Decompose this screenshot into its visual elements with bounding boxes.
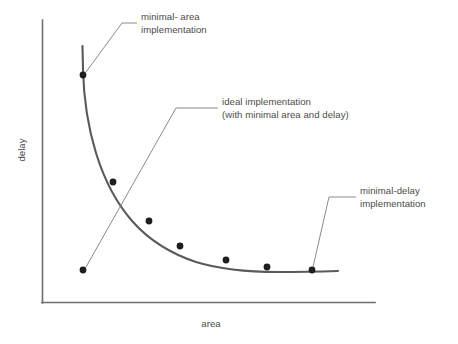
annotation-ideal-line2: (with minimal area and delay)	[222, 109, 349, 120]
area-delay-tradeoff-figure: delay area minimal- area implementation	[0, 0, 458, 344]
annotation-minimal-delay-line2: implementation	[360, 198, 426, 209]
data-marker	[309, 267, 316, 274]
x-axis-label: area	[201, 318, 221, 329]
data-marker	[146, 218, 153, 225]
data-marker	[177, 243, 184, 250]
annotation-ideal-line1: ideal implementation	[222, 96, 311, 107]
y-axis-label: delay	[16, 138, 27, 161]
data-marker	[264, 264, 271, 271]
data-marker	[110, 179, 117, 186]
data-marker	[223, 257, 230, 264]
annotation-minimal-area-line1: minimal- area	[141, 11, 200, 22]
annotation-minimal-area-line2: implementation	[141, 24, 207, 35]
data-marker	[80, 72, 87, 79]
ideal-implementation-point	[80, 267, 87, 274]
annotation-minimal-delay-line1: minimal-delay	[360, 185, 420, 196]
figure-background	[0, 0, 458, 344]
